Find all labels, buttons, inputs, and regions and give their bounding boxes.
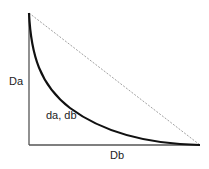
x-axis-label: Db [110, 150, 124, 161]
y-axis-label: Da [9, 76, 23, 87]
diagram-canvas [0, 0, 209, 169]
curve-label: da, db [46, 110, 77, 121]
diagonal-dashed-line [29, 13, 200, 145]
